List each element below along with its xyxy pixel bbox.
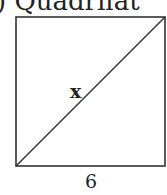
square-diagram: x 6 xyxy=(0,0,167,195)
side-label: 6 xyxy=(85,170,97,192)
diagonal-label: x xyxy=(70,80,82,102)
diagonal-line xyxy=(16,17,165,166)
